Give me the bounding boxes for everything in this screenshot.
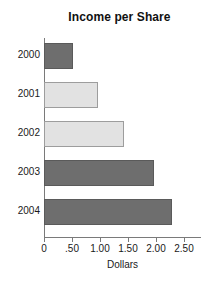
y-tick-label-2001: 2001	[0, 88, 40, 99]
y-tick-label-2002: 2002	[0, 127, 40, 138]
y-tick-label-2004: 2004	[0, 205, 40, 216]
x-tick-mark-2	[100, 238, 101, 242]
bar-2004	[44, 199, 172, 225]
bar-2000	[44, 43, 73, 69]
chart-title: Income per Share	[0, 10, 211, 24]
x-tick-label-0: 0	[41, 243, 47, 254]
bar-2002	[44, 121, 124, 147]
x-tick-mark-1	[72, 238, 73, 242]
x-tick-mark-4	[156, 238, 157, 242]
x-tick-label-1.50: 1.50	[118, 243, 137, 254]
x-tick-mark-5	[184, 238, 185, 242]
x-tick-label-1.00: 1.00	[90, 243, 109, 254]
bar-chart: Income per Share 20002001200220032004 0.…	[0, 0, 211, 283]
x-axis-line	[44, 237, 201, 238]
x-tick-mark-3	[128, 238, 129, 242]
y-tick-label-2000: 2000	[0, 49, 40, 60]
bar-2003	[44, 160, 154, 186]
x-tick-mark-0	[44, 238, 45, 242]
x-tick-label-.50: .50	[65, 243, 79, 254]
x-tick-label-2.00: 2.00	[146, 243, 165, 254]
y-tick-label-2003: 2003	[0, 166, 40, 177]
x-axis-title: Dollars	[44, 259, 201, 270]
bar-2001	[44, 82, 98, 108]
x-tick-label-2.50: 2.50	[174, 243, 193, 254]
